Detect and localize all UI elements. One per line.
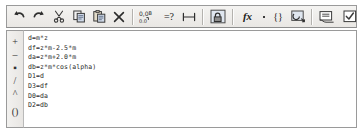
undo-icon (12, 10, 26, 23)
copy-button[interactable] (69, 7, 89, 26)
paste-button[interactable] (89, 7, 109, 26)
operator-divide-button[interactable]: / (8, 74, 23, 87)
formula-text-area[interactable]: d=m*z df=z*m-2.5*m da=z*m+2.0*m db=z*m*c… (23, 30, 357, 128)
braces-button[interactable]: {} (268, 7, 288, 26)
toolbar-group-format: 0,0 B 0.0 =? (136, 6, 199, 27)
operator-dot-icon (263, 16, 265, 18)
copy-icon (73, 10, 86, 23)
lock-icon (210, 9, 226, 24)
toolbar-separator (202, 9, 203, 25)
cut-button[interactable] (49, 7, 69, 26)
function-button[interactable]: fx (236, 7, 259, 26)
unit-button[interactable] (288, 7, 308, 26)
operator-plus-button[interactable]: + (8, 35, 23, 48)
svg-text:B: B (149, 10, 153, 16)
toolbar: 0,0 B 0.0 =? (6, 5, 357, 28)
redo-button[interactable] (29, 7, 49, 26)
undo-button[interactable] (9, 7, 29, 26)
toolbar-group-insert: fx {} (236, 6, 308, 27)
evaluate-button[interactable]: =? (159, 7, 179, 26)
function-fx-icon: fx (243, 11, 252, 22)
paste-icon (93, 10, 106, 23)
delete-button[interactable] (109, 7, 129, 26)
lock-button[interactable] (206, 7, 229, 26)
minus-icon: – (13, 50, 18, 60)
note-button[interactable] (315, 7, 338, 26)
measure-button[interactable] (179, 7, 199, 26)
check-button[interactable] (338, 7, 361, 26)
check-icon (343, 10, 357, 23)
toolbar-group-lock (206, 6, 229, 27)
operator-dot-button[interactable] (259, 7, 268, 26)
plus-icon: + (12, 37, 18, 47)
toolbar-separator (132, 9, 133, 25)
close-x-icon (113, 11, 125, 23)
number-format-icon: 0,0 B 0.0 (139, 10, 156, 24)
power-icon: ^ (13, 89, 18, 99)
toolbar-group-view (315, 6, 361, 27)
unit-icon (291, 10, 306, 24)
toolbar-separator (311, 9, 312, 25)
measure-icon (182, 12, 196, 22)
formula-editor-window: 0,0 B 0.0 =? (0, 0, 363, 133)
note-icon (319, 10, 335, 23)
formula-text[interactable]: d=m*z df=z*m-2.5*m da=z*m+2.0*m db=z*m*c… (24, 31, 356, 111)
editor-area: + – ▪ / ^ () d=m*z df=z*m-2.5*m da=z*m+2… (6, 30, 357, 128)
number-format-button[interactable]: 0,0 B 0.0 (136, 7, 159, 26)
divide-icon: / (14, 76, 17, 86)
operator-multiply-button[interactable]: ▪ (8, 61, 23, 74)
operator-sidebar: + – ▪ / ^ () (6, 30, 23, 128)
parentheses-icon: () (12, 107, 19, 117)
cut-scissors-icon (53, 10, 65, 23)
toolbar-group-edit (9, 6, 129, 27)
operator-power-button[interactable]: ^ (8, 87, 23, 100)
toolbar-separator (232, 9, 233, 25)
redo-icon (32, 10, 46, 23)
svg-text:0.0: 0.0 (139, 18, 147, 24)
braces-icon: {} (273, 12, 283, 22)
operator-parentheses-button[interactable]: () (8, 105, 23, 118)
operator-minus-button[interactable]: – (8, 48, 23, 61)
svg-text:0,0: 0,0 (139, 10, 149, 17)
evaluate-icon: =? (164, 12, 174, 22)
multiply-icon: ▪ (13, 63, 17, 73)
